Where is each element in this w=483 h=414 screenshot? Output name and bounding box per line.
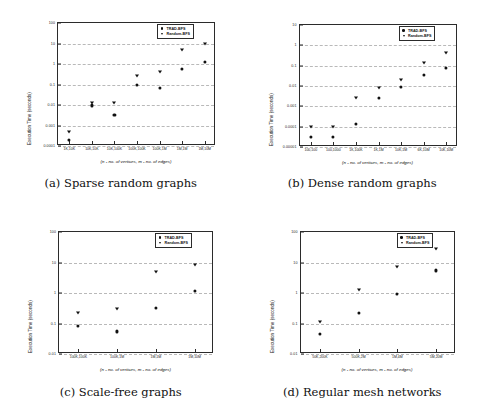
x-tick-label: 50K,200K	[312, 355, 327, 359]
legend-item: Random-BFS	[160, 32, 190, 36]
triangle-marker-icon	[160, 33, 164, 35]
gridline	[301, 324, 454, 325]
caption-a: (a) Sparse random graphs	[0, 176, 242, 190]
x-tick-label: 100K,1M	[153, 147, 167, 151]
panel-a: 1001010.10.010.0010.00011K,10K10K,10K10K…	[0, 0, 242, 207]
x-tick-mark	[195, 349, 196, 352]
gridline	[301, 263, 454, 264]
x-tick-mark	[356, 142, 357, 145]
triangle-marker-icon	[402, 35, 406, 37]
y-tick-mark	[300, 106, 303, 107]
y-tick-label: 10	[292, 23, 296, 27]
gridline	[59, 263, 212, 264]
x-axis-label: (n - no. of vertices, m - no. of edges)	[342, 367, 413, 372]
x-axis-label: (n - no. of vertices, m - no. of edges)	[342, 160, 413, 165]
data-point	[357, 312, 360, 315]
caption-c: (c) Scale-free graphs	[0, 385, 242, 399]
x-tick-label: 10K,10M	[439, 148, 453, 152]
circle-marker-icon	[160, 27, 164, 30]
y-tick-mark	[300, 126, 303, 127]
legend: TRAD-BFSRandom-BFS	[155, 233, 192, 248]
x-tick-mark	[424, 142, 425, 145]
x-tick-label: 1M,10M	[188, 355, 201, 359]
y-tick-label: 0.1	[291, 64, 296, 68]
data-point	[112, 102, 116, 105]
data-point	[444, 52, 448, 55]
legend-label: Random-BFS	[165, 241, 188, 245]
caption-d: (d) Regular mesh networks	[242, 385, 483, 399]
data-point	[309, 125, 313, 128]
data-point	[377, 97, 380, 100]
y-tick-mark	[58, 125, 61, 126]
y-tick-mark	[58, 43, 61, 44]
legend-item: Random-BFS	[402, 34, 432, 38]
gridline	[300, 106, 456, 107]
x-tick-mark	[156, 349, 157, 352]
y-tick-label: 0.01	[48, 103, 55, 107]
data-point	[332, 136, 335, 139]
data-point	[181, 68, 184, 71]
gridline	[59, 324, 212, 325]
legend-item: TRAD-BFS	[402, 29, 432, 33]
legend-label: Random-BFS	[167, 32, 190, 36]
panel-b: 1010.10.010.0010.00010.00001100,100100,1…	[242, 0, 483, 207]
plot-area-c: 1001010.10.01100K,100K100K,1M1M,1M1M,10M	[58, 231, 213, 353]
x-tick-mark	[205, 141, 206, 144]
data-point	[158, 86, 161, 89]
data-point	[154, 270, 158, 273]
y-tick-mark	[59, 232, 62, 233]
y-tick-label: 0.0001	[43, 144, 55, 148]
x-tick-mark	[436, 349, 437, 352]
gridline	[300, 66, 456, 67]
data-point	[396, 293, 399, 296]
y-tick-mark	[300, 25, 303, 26]
data-point	[354, 97, 358, 100]
y-tick-label: 0.01	[290, 352, 297, 356]
data-point	[434, 247, 438, 250]
x-tick-label: 10K,1M	[395, 148, 407, 152]
y-tick-label: 100	[291, 230, 297, 234]
x-tick-mark	[401, 142, 402, 145]
y-tick-label: 1	[54, 291, 56, 295]
legend: TRAD-BFSRandom-BFS	[397, 233, 434, 248]
x-tick-mark	[182, 141, 183, 144]
y-tick-label: 100	[49, 21, 55, 25]
x-tick-label: 1K,10K	[64, 147, 75, 151]
y-tick-mark	[58, 105, 61, 106]
data-point	[309, 136, 312, 139]
data-point	[377, 86, 381, 89]
triangle-marker-icon	[158, 242, 162, 244]
x-tick-label: 1M,10M	[198, 147, 211, 151]
data-point	[435, 269, 438, 272]
y-tick-label: 10	[293, 261, 297, 265]
y-tick-mark	[300, 147, 303, 148]
y-tick-mark	[59, 293, 62, 294]
legend-item: Random-BFS	[400, 241, 430, 245]
y-tick-label: 0.1	[292, 322, 297, 326]
y-tick-mark	[58, 64, 61, 65]
y-tick-label: 1	[295, 291, 297, 295]
x-tick-label: 100,100	[304, 148, 317, 152]
y-tick-mark	[301, 262, 304, 263]
data-point	[354, 123, 357, 126]
gridline	[58, 64, 214, 65]
legend-label: TRAD-BFS	[406, 236, 425, 240]
legend-item: Random-BFS	[158, 241, 188, 245]
x-tick-label: 100K,100K	[128, 147, 145, 151]
data-point	[422, 73, 425, 76]
y-tick-label: 0.01	[289, 84, 296, 88]
circle-marker-icon	[402, 29, 406, 32]
legend-item: TRAD-BFS	[400, 236, 430, 240]
x-tick-label: 1M,1M	[151, 355, 162, 359]
y-tick-label: 0.00001	[283, 145, 297, 149]
y-tick-mark	[301, 232, 304, 233]
data-point	[76, 312, 80, 315]
data-point	[400, 85, 403, 88]
x-tick-label: 10K,10K	[85, 147, 98, 151]
legend-item: TRAD-BFS	[160, 27, 190, 31]
legend-item: TRAD-BFS	[158, 236, 188, 240]
y-tick-mark	[301, 323, 304, 324]
data-point	[90, 101, 94, 104]
data-point	[67, 130, 71, 133]
data-point	[135, 75, 139, 78]
